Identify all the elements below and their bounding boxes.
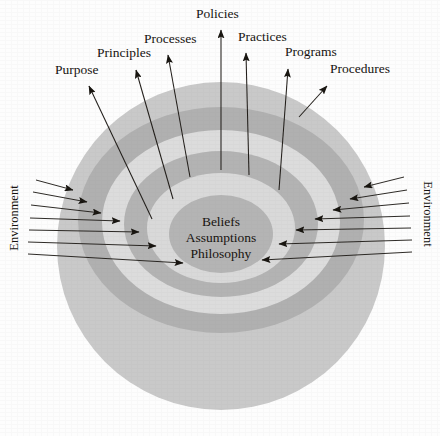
callout-label-procedures: Procedures bbox=[330, 61, 390, 76]
core-line-assumptions: Assumptions bbox=[186, 230, 257, 245]
env-arrow-left-1 bbox=[36, 180, 73, 190]
callout-label-principles: Principles bbox=[97, 45, 151, 60]
callout-labels: Purpose Principles Processes Policies Pr… bbox=[55, 6, 390, 77]
core-line-beliefs: Beliefs bbox=[202, 214, 240, 229]
diagram-canvas: Beliefs Assumptions Philosophy Purpose P… bbox=[0, 0, 440, 436]
callout-label-policies: Policies bbox=[196, 6, 239, 21]
callout-label-processes: Processes bbox=[144, 31, 197, 46]
callout-label-programs: Programs bbox=[285, 44, 337, 59]
environment-label-right: Environment bbox=[421, 181, 435, 247]
core-line-philosophy: Philosophy bbox=[191, 246, 252, 261]
environment-label-left: Environment bbox=[7, 185, 21, 251]
callout-label-practices: Practices bbox=[238, 29, 287, 44]
callout-label-purpose: Purpose bbox=[55, 62, 99, 77]
